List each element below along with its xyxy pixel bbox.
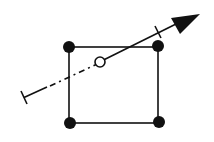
ray-hidden-segment — [50, 65, 96, 87]
ray-visible-segment — [105, 24, 177, 60]
vertex-bottom-right — [153, 116, 165, 128]
vertex-bottom-left — [64, 117, 76, 129]
vertex-top-right — [152, 40, 164, 52]
vertex-top-left — [63, 41, 75, 53]
arrowhead — [171, 14, 200, 34]
diagram-canvas — [0, 0, 214, 142]
ray-start-segment — [24, 87, 47, 98]
square-outline — [69, 47, 158, 123]
center-point-hollow-circle — [95, 57, 105, 67]
